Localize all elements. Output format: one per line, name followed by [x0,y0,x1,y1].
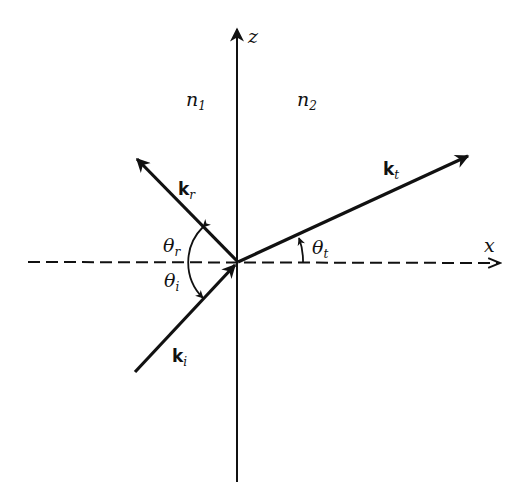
theta-t-label: θt [312,238,328,260]
x-axis [28,262,499,263]
medium-1-label: n1 [186,90,206,112]
transmitted-vector-label: kt [383,161,399,181]
theta-i-label: θi [164,271,179,293]
theta-t-arc [299,238,303,262]
z-axis-label: z [248,27,258,46]
refraction-diagram [0,0,523,501]
transmitted-vector [238,156,468,262]
theta-r-label: θr [163,236,180,258]
x-axis-label: x [484,236,495,255]
reflected-vector [137,159,238,262]
reflected-vector-label: kr [178,181,195,201]
incident-vector-label: ki [172,348,187,368]
medium-2-label: n2 [297,90,317,112]
